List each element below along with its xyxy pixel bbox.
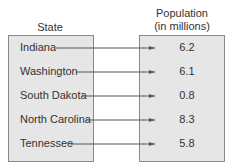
mapping-arrows bbox=[0, 0, 231, 167]
